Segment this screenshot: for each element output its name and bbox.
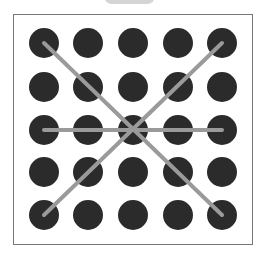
pattern-dot-r1-c4[interactable] xyxy=(207,72,237,102)
pattern-dot-r0-c3[interactable] xyxy=(163,28,193,58)
pattern-dot-r0-c1[interactable] xyxy=(73,28,103,58)
pattern-dot-r1-c2[interactable] xyxy=(118,72,148,102)
pattern-lock-grid[interactable] xyxy=(0,0,261,258)
pattern-dot-r4-c3[interactable] xyxy=(163,200,193,230)
pattern-dot-r4-c1[interactable] xyxy=(73,200,103,230)
pattern-dot-r4-c2[interactable] xyxy=(118,200,148,230)
pattern-dot-r3-c0[interactable] xyxy=(29,157,59,187)
pattern-dot-r3-c4[interactable] xyxy=(207,157,237,187)
pattern-dot-r1-c0[interactable] xyxy=(29,72,59,102)
pattern-dot-r0-c2[interactable] xyxy=(118,28,148,58)
pattern-dot-r3-c2[interactable] xyxy=(118,157,148,187)
